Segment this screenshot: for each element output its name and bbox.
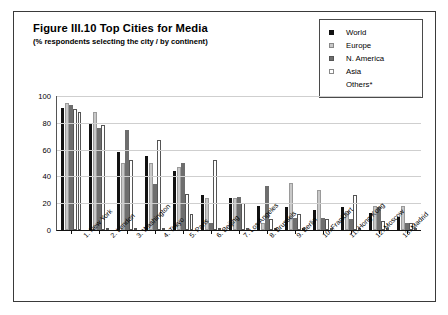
bar <box>134 228 138 230</box>
gridline <box>57 203 421 204</box>
y-axis-tick-label: 20 <box>43 199 51 208</box>
x-axis-tick <box>71 230 72 234</box>
bar <box>209 223 213 230</box>
bar <box>69 105 73 230</box>
legend-item: Asia <box>329 65 422 77</box>
y-axis: 020406080100 <box>33 96 53 230</box>
legend-label: World <box>346 28 366 37</box>
bar <box>73 109 77 230</box>
plot-wrapper: 020406080100 1. New York2. London3. Wash… <box>33 96 421 246</box>
legend-item: Others* <box>329 78 422 90</box>
bar-group <box>113 96 141 230</box>
legend-swatch-icon <box>329 43 334 48</box>
legend-item: N. America <box>329 52 422 64</box>
bar-group <box>169 96 197 230</box>
bar-group <box>225 96 253 230</box>
gridline <box>57 176 421 177</box>
legend-label: Others* <box>346 80 372 89</box>
figure-header: Figure III.10 Top Cities for Media (% re… <box>33 22 323 46</box>
bar <box>93 112 97 230</box>
legend-item: World <box>329 26 422 38</box>
bar <box>213 160 217 230</box>
legend-swatch-icon <box>329 30 334 35</box>
figure-title: Figure III.10 Top Cities for Media <box>33 22 323 34</box>
bar-group <box>309 96 337 230</box>
bar <box>185 194 189 230</box>
gridline <box>57 96 421 97</box>
bar <box>237 197 241 231</box>
figure-subtitle: (% respondents selecting the city / by c… <box>33 37 323 46</box>
bar <box>293 218 297 230</box>
bar <box>61 108 65 230</box>
bar <box>78 112 82 230</box>
legend-swatch-icon <box>329 69 334 74</box>
y-axis-tick-label: 80 <box>43 118 51 127</box>
legend-label: Asia <box>346 67 361 76</box>
bar <box>106 228 110 230</box>
y-axis-tick-label: 100 <box>38 92 51 101</box>
y-axis-tick-label: 40 <box>43 172 51 181</box>
bar <box>145 156 149 230</box>
bar-group <box>197 96 225 230</box>
bar-group <box>57 96 85 230</box>
x-axis: 1. New York2. London3. Washington4. Toky… <box>75 234 421 294</box>
bar <box>241 203 245 230</box>
legend-label: Europe <box>346 41 371 50</box>
legend-swatch-icon <box>329 56 334 61</box>
bar-group <box>281 96 309 230</box>
gridline <box>57 123 421 124</box>
gridline <box>57 150 421 151</box>
bar <box>289 183 293 230</box>
bar <box>317 190 321 230</box>
bar <box>321 218 325 230</box>
legend-swatch-icon <box>329 82 334 87</box>
y-axis-tick-label: 60 <box>43 145 51 154</box>
figure-frame: Figure III.10 Top Cities for Media (% re… <box>13 11 436 302</box>
y-axis-tick-label: 0 <box>47 226 51 235</box>
bar <box>117 152 121 230</box>
legend-item: Europe <box>329 39 422 51</box>
bar <box>65 103 69 230</box>
legend-label: N. America <box>346 54 384 63</box>
chart-legend: WorldEuropeN. AmericaAsiaOthers* <box>319 19 423 98</box>
